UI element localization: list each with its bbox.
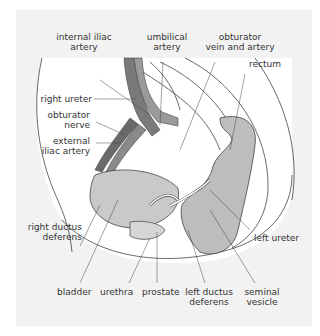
label-external-iliac-artery: external iliac artery (36, 136, 90, 156)
label-seminal-vesicle: seminal vesicle (240, 287, 284, 307)
label-line: obturator (205, 32, 275, 42)
label-left-ureter: left ureter (254, 233, 299, 243)
label-obturator-nerve: obturator nerve (40, 110, 90, 130)
label-line: right ductus (20, 222, 82, 232)
label-bladder: bladder (57, 287, 91, 297)
label-umbilical-artery: umbilical artery (145, 32, 189, 52)
label-line: deferens (20, 232, 82, 242)
label-line: external (36, 136, 90, 146)
label-line: umbilical (145, 32, 189, 42)
label-obturator-vein-and-artery: obturator vein and artery (205, 32, 275, 52)
label-prostate: prostate (142, 287, 180, 297)
label-line: vein and artery (205, 42, 275, 52)
label-line: vesicle (240, 297, 284, 307)
label-line: artery (145, 42, 189, 52)
label-line: left ductus (183, 287, 235, 297)
label-urethra: urethra (100, 287, 133, 297)
label-line: seminal (240, 287, 284, 297)
label-left-ductus-deferens: left ductus deferens (183, 287, 235, 307)
label-line: obturator (40, 110, 90, 120)
label-line: deferens (183, 297, 235, 307)
label-right-ureter: right ureter (30, 94, 92, 104)
label-right-ductus-deferens: right ductus deferens (20, 222, 82, 242)
label-line: nerve (40, 120, 90, 130)
label-rectum: rectum (249, 59, 281, 69)
label-line: artery (54, 42, 114, 52)
label-internal-iliac-artery: internal iliac artery (54, 32, 114, 52)
label-line: internal iliac (54, 32, 114, 42)
label-line: iliac artery (36, 146, 90, 156)
